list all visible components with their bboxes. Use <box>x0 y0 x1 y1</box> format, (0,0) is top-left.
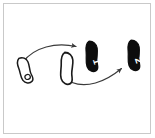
figure-root: 1 2 <box>0 0 155 138</box>
diagram-canvas: 1 2 <box>0 0 155 138</box>
filled-shape-two-body <box>124 39 144 72</box>
filled-shape-one <box>82 40 102 73</box>
outlined-shape-left <box>13 55 37 85</box>
outlined-shape-middle-body <box>58 52 77 86</box>
filled-shape-one-body <box>82 40 102 73</box>
outlined-shape-middle <box>58 52 77 86</box>
outlined-shape-left-body <box>13 55 37 85</box>
filled-shape-two <box>124 39 144 72</box>
